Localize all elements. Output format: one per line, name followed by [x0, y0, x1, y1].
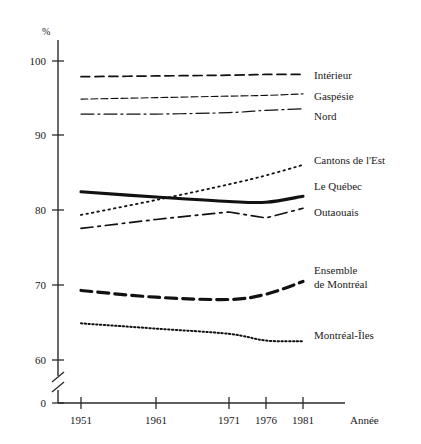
series-layer [81, 74, 303, 341]
y-axis-unit-label: % [42, 26, 50, 37]
y-tick-label-80: 80 [35, 204, 47, 216]
line-chart-svg: % 100 90 80 70 60 0 [0, 0, 421, 444]
series-line-gaspesie [81, 94, 303, 99]
y-tick-group: 100 90 80 70 60 0 [30, 55, 65, 409]
legend-label-outaouais: Outaouais [314, 206, 359, 218]
legend-label-interieur: Intérieur [314, 69, 352, 81]
y-tick-label-90: 90 [35, 129, 47, 141]
legend-label-gaspesie: Gaspésie [314, 90, 354, 102]
x-tick-label-1961: 1961 [145, 414, 167, 426]
y-tick-label-60: 60 [35, 354, 47, 366]
legend-label-nord: Nord [314, 110, 337, 122]
x-tick-label-1981: 1981 [292, 414, 314, 426]
series-line-nord [81, 109, 303, 114]
legend-label-ensemble: Ensemble [314, 264, 357, 276]
x-tick-label-1976: 1976 [255, 414, 278, 426]
series-line-outaouais [81, 208, 303, 228]
x-tick-label-1951: 1951 [70, 414, 92, 426]
series-line-ensemble-de-montreal [81, 282, 303, 300]
y-tick-label-70: 70 [35, 279, 47, 291]
x-axis-title: Année [350, 414, 379, 426]
legend-label-de-montreal: de Montréal [314, 278, 367, 290]
series-line-cantons-de-l-est [81, 165, 303, 215]
y-tick-label-0: 0 [41, 397, 47, 409]
series-line-le-quebec [81, 192, 303, 203]
y-tick-label-100: 100 [30, 55, 47, 67]
series-line-montreal-iles [81, 323, 303, 341]
legend-label-montreal-iles: Montréal-Îles [314, 329, 374, 341]
legend-label-le-quebec: Le Québec [314, 180, 362, 192]
chart-figure: % 100 90 80 70 60 0 [0, 0, 421, 444]
x-tick-label-1971: 1971 [218, 414, 240, 426]
legend-label-cantons: Cantons de l'Est [314, 154, 385, 166]
legend: Intérieur Gaspésie Nord Cantons de l'Est… [314, 69, 385, 341]
x-tick-group: 1951 1961 1971 1976 1981 [70, 397, 314, 426]
series-line-interieur [81, 74, 303, 76]
